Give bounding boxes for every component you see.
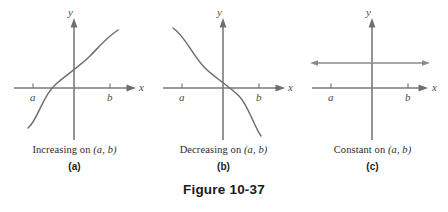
figure-caption: Figure 10-37	[0, 182, 448, 197]
panel-b-key: (b)	[149, 161, 298, 172]
y-axis-arrowhead-icon	[71, 18, 78, 28]
x-axis-label: x	[431, 81, 437, 93]
tick-label-a: a	[328, 91, 334, 103]
x-axis-arrowhead-icon	[127, 85, 137, 92]
graph-decreasing: y x a b	[149, 0, 298, 148]
y-axis-label: y	[67, 6, 73, 18]
panel-b-description: Decreasing on (a, b)	[149, 144, 298, 155]
panel-c-interval: (a, b)	[388, 144, 411, 155]
graph-constant: y x a b	[298, 0, 447, 148]
panel-increasing: y x a b	[0, 0, 149, 160]
panel-c-description: Constant on (a, b)	[298, 144, 447, 155]
curve-decreasing	[173, 28, 261, 136]
constant-left-arrowhead-icon	[310, 60, 318, 65]
panel-a-description: Increasing on (a, b)	[0, 144, 149, 155]
tick-label-b: b	[405, 91, 411, 103]
tick-label-a: a	[30, 91, 36, 103]
panel-c-description-text: Constant on	[334, 144, 388, 155]
panel-constant: y x a b	[298, 0, 447, 160]
panel-b-description-text: Decreasing on	[180, 144, 244, 155]
panel-b-interval: (a, b)	[244, 144, 267, 155]
tick-label-a: a	[179, 91, 185, 103]
y-axis-arrowhead-icon	[369, 18, 376, 28]
y-axis-label: y	[365, 6, 371, 18]
panel-a-key: (a)	[0, 161, 149, 172]
panel-c-key: (c)	[298, 161, 447, 172]
panel-a-interval: (a, b)	[93, 144, 116, 155]
tick-label-b: b	[256, 91, 262, 103]
x-axis-label: x	[138, 81, 144, 93]
figure-container: y x a b y x a b	[0, 0, 448, 212]
tick-label-b: b	[107, 91, 113, 103]
x-axis-arrowhead-icon	[419, 85, 429, 92]
graph-increasing: y x a b	[0, 0, 149, 148]
x-axis-label: x	[287, 81, 293, 93]
panel-decreasing: y x a b	[149, 0, 298, 160]
x-axis-arrowhead-icon	[276, 85, 286, 92]
constant-right-arrowhead-icon	[422, 60, 430, 65]
y-axis-label: y	[216, 6, 222, 18]
curve-increasing	[28, 30, 118, 128]
panel-a-description-text: Increasing on	[32, 144, 93, 155]
y-axis-arrowhead-icon	[220, 18, 227, 28]
